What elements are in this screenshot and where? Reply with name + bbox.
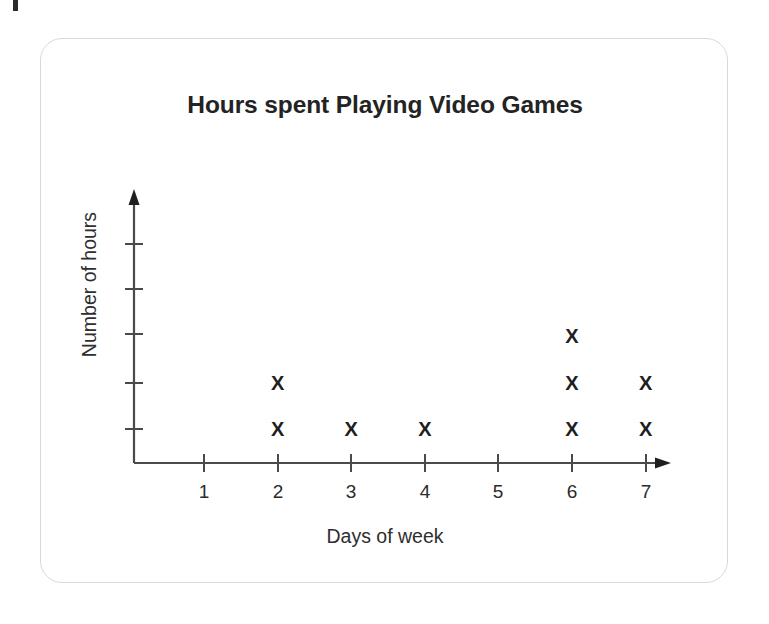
x-tick-label-4: 4: [410, 481, 440, 503]
data-mark: X: [266, 370, 290, 396]
data-mark: X: [560, 370, 584, 396]
y-axis-label: Number of hours: [78, 185, 101, 385]
data-mark: X: [560, 416, 584, 442]
x-tick-label-2: 2: [263, 481, 293, 503]
x-tick-label-7: 7: [631, 481, 661, 503]
x-axis-arrowhead: [655, 458, 671, 469]
data-mark: X: [266, 416, 290, 442]
data-mark: X: [634, 370, 658, 396]
y-axis-arrowhead: [129, 189, 140, 205]
data-mark: X: [339, 416, 363, 442]
scan-artifact: [13, 0, 18, 11]
data-mark: X: [413, 416, 437, 442]
data-mark: X: [634, 416, 658, 442]
x-tick-label-5: 5: [483, 481, 513, 503]
chart-card: Hours spent Playing Video Games: [40, 38, 728, 583]
x-tick-label-6: 6: [557, 481, 587, 503]
x-tick-label-1: 1: [189, 481, 219, 503]
plot-area: Number of hours 1 2 3 4 5 6 7 Days of we…: [41, 39, 729, 584]
x-tick-label-3: 3: [336, 481, 366, 503]
x-axis-label: Days of week: [41, 525, 729, 548]
axes-svg: [41, 39, 729, 584]
data-mark: X: [560, 323, 584, 349]
